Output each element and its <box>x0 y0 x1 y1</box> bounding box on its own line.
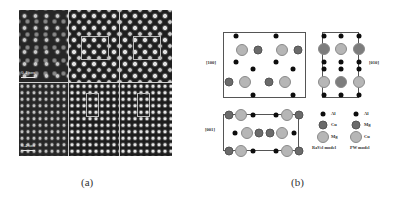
highlight-box <box>137 93 150 117</box>
atom-medium <box>225 147 234 156</box>
hrtem-bottom-simulated-1 <box>69 83 119 156</box>
hrtem-bottom-simulated-2 <box>120 83 172 156</box>
atom-al <box>234 34 239 39</box>
atom-large <box>353 76 365 88</box>
panel-divider <box>19 82 172 83</box>
atom-medium <box>225 78 234 87</box>
hrtem-top-simulated-1 <box>69 10 119 82</box>
atom-al <box>274 60 279 65</box>
atom-al <box>357 60 362 65</box>
hrtem-bottom-experimental: 0.4 nm <box>19 83 68 156</box>
atom-al <box>339 93 344 98</box>
atom-al <box>233 131 238 136</box>
atom-large <box>279 76 291 88</box>
atom-medium <box>294 46 303 55</box>
atom-al <box>274 113 279 118</box>
atom-large-dark <box>335 76 347 88</box>
legend-label: Cu <box>364 134 370 139</box>
panel-divider <box>119 10 120 156</box>
legend-label: Mg <box>364 122 371 127</box>
atom-large <box>276 127 288 139</box>
atom-medium <box>266 129 275 138</box>
atom-large <box>281 145 293 157</box>
atom-al <box>251 93 256 98</box>
model-view-001 <box>223 114 299 151</box>
legend-al-icon <box>354 112 359 117</box>
model-view-100 <box>223 32 306 98</box>
atom-al <box>234 60 239 65</box>
model-view-010 <box>322 32 359 98</box>
highlight-box <box>81 36 109 60</box>
view-label-100: [100] <box>206 60 216 65</box>
legend-label: Al <box>331 111 336 116</box>
atom-al <box>251 67 256 72</box>
hrtem-top-experimental: 0.4 nm <box>19 10 68 82</box>
atom-large <box>235 145 247 157</box>
atom-large <box>239 76 251 88</box>
atom-medium <box>295 147 304 156</box>
atom-al <box>291 67 296 72</box>
atom-al <box>251 113 256 118</box>
scale-bar-label: 0.4 nm <box>21 143 35 148</box>
atom-medium <box>255 129 264 138</box>
caption-b: (b) <box>291 176 304 188</box>
atom-large <box>241 127 253 139</box>
atom-al <box>322 34 327 39</box>
legend-medium-icon <box>319 121 328 130</box>
caption-a: (a) <box>81 176 93 188</box>
legend-title: PW model <box>350 145 370 150</box>
atom-al <box>274 34 279 39</box>
highlight-box <box>86 93 99 117</box>
legend-label: Al <box>364 111 369 116</box>
atom-large <box>335 43 347 55</box>
atom-al <box>357 93 362 98</box>
atom-al <box>322 93 327 98</box>
atom-al <box>357 34 362 39</box>
atom-large <box>276 44 288 56</box>
hrtem-top-simulated-2 <box>120 10 172 82</box>
panel-divider <box>68 10 69 156</box>
legend-medium-icon <box>352 121 361 130</box>
atom-large-dark <box>353 43 365 55</box>
atom-medium <box>225 111 234 120</box>
atom-al <box>339 60 344 65</box>
atom-large <box>236 44 248 56</box>
atom-large <box>281 109 293 121</box>
atom-large <box>235 109 247 121</box>
atom-medium <box>295 111 304 120</box>
atom-medium <box>265 78 274 87</box>
scale-bar <box>21 77 35 78</box>
view-label-010: [010] <box>369 60 379 65</box>
scale-bar <box>21 150 35 151</box>
view-label-001: [001] <box>205 127 215 132</box>
legend-title: RaVel model <box>312 145 336 150</box>
atom-al <box>339 34 344 39</box>
atom-large <box>318 76 330 88</box>
legend-large-icon <box>317 131 329 143</box>
atom-al <box>322 60 327 65</box>
atom-medium <box>254 46 263 55</box>
atom-al <box>274 149 279 154</box>
hrtem-image-grid: 0.4 nm 0.4 nm <box>19 10 172 156</box>
atom-al <box>292 131 297 136</box>
legend-large-icon <box>350 131 362 143</box>
legend-label: Mg <box>331 134 338 139</box>
atom-al <box>251 149 256 154</box>
atom-al <box>357 67 362 72</box>
atom-al <box>322 67 327 72</box>
atom-al <box>339 67 344 72</box>
atom-large-dark <box>318 43 330 55</box>
scale-bar-label: 0.4 nm <box>21 70 35 75</box>
legend-label: Cu <box>331 122 337 127</box>
atom-al <box>291 93 296 98</box>
highlight-box <box>133 36 161 60</box>
legend-al-icon <box>321 112 326 117</box>
